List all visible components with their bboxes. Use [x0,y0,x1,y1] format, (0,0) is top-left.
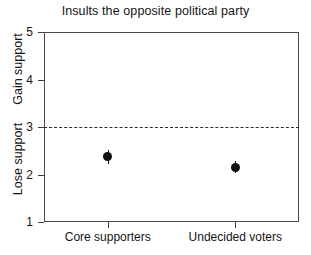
reference-line-neutral [44,127,299,128]
x-tick-label: Core supporters [43,230,173,244]
chart-title: Insults the opposite political party [0,4,311,19]
y-tick-label: 2 [0,169,33,181]
plot-area [44,32,299,222]
y-tick-mark [38,222,44,223]
chart-figure: Insults the opposite political party Gai… [0,0,311,255]
y-tick-label: 4 [0,74,33,86]
data-point [231,163,240,172]
x-tick-mark [235,222,236,228]
y-tick-label: 3 [0,121,33,133]
y-tick-label: 1 [0,216,33,228]
data-point [103,152,112,161]
x-tick-mark [108,222,109,228]
y-tick-label: 5 [0,26,33,38]
x-tick-label: Undecided voters [170,230,300,244]
